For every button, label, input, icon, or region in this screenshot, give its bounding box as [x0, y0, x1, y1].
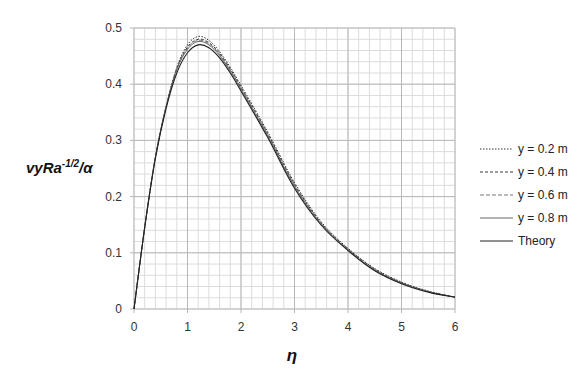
x-axis-title: η	[287, 346, 297, 365]
x-tick-label: 1	[184, 320, 191, 334]
legend-label: y = 0.8 m	[518, 211, 568, 225]
x-tick-label: 2	[238, 320, 245, 334]
y-axis-title-sup: -1/2	[62, 158, 80, 169]
legend-label: y = 0.4 m	[518, 165, 568, 179]
legend: y = 0.2 my = 0.4 my = 0.6 my = 0.8 mTheo…	[480, 142, 568, 248]
x-tick-label: 4	[345, 320, 352, 334]
x-tick-label: 5	[398, 320, 405, 334]
y-axis-title-base: vyRa	[26, 159, 62, 176]
x-tick-label: 6	[452, 320, 459, 334]
y-axis-title: vyRa-1/2/α	[26, 158, 93, 176]
y-tick-label: 0.2	[105, 190, 122, 204]
y-axis-title-tail: /α	[78, 159, 93, 176]
legend-label: Theory	[518, 234, 555, 248]
legend-label: y = 0.6 m	[518, 188, 568, 202]
y-axis-ticks: 00.10.20.30.40.5	[105, 21, 122, 316]
y-tick-label: 0.5	[105, 21, 122, 35]
y-tick-label: 0.1	[105, 246, 122, 260]
major-gridlines	[130, 28, 455, 313]
x-axis-ticks: 0123456	[131, 320, 459, 334]
y-tick-label: 0.3	[105, 133, 122, 147]
x-tick-label: 3	[291, 320, 298, 334]
x-tick-label: 0	[131, 320, 138, 334]
legend-label: y = 0.2 m	[518, 142, 568, 156]
line-chart: 00.10.20.30.40.5 0123456 y = 0.2 my = 0.…	[0, 0, 588, 385]
y-tick-label: 0.4	[105, 77, 122, 91]
y-tick-label: 0	[115, 302, 122, 316]
